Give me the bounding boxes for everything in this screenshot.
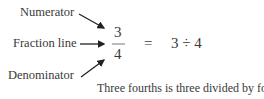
- equals-sign: =: [144, 35, 152, 52]
- division-expression: 3 ÷ 4: [171, 35, 202, 52]
- denominator-arrow-icon: [81, 60, 104, 77]
- fraction-numerator: 3: [114, 24, 122, 41]
- caption: Three fourths is three divided by four.: [97, 81, 264, 96]
- numerator-arrow-icon: [79, 14, 104, 28]
- fraction-denominator: 4: [114, 46, 122, 63]
